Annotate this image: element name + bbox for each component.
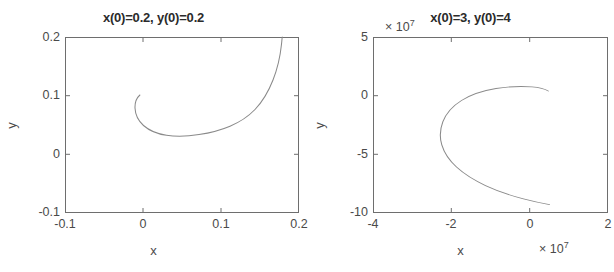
yaxis-label-right: y: [312, 106, 327, 146]
xtick-label-right-1: -2: [426, 217, 476, 231]
figure-container: x(0)=0.2, y(0)=0.2 0.2 0.1 0 -0.1 -0.1: [0, 0, 614, 272]
ytick-label-left-2: 0: [12, 147, 60, 161]
ytick-label-right-1: 0: [320, 88, 368, 102]
xtick-label-right-2: 0: [505, 217, 555, 231]
plot-panel-right: x(0)=3, y(0)=4 × 107 × 107: [307, 0, 614, 272]
plot-title-right: x(0)=3, y(0)=4: [327, 10, 614, 25]
xtick-label-right-3: 2: [583, 217, 614, 231]
axis-ticks-left: [65, 37, 299, 213]
yaxis-label-left: y: [4, 106, 19, 146]
ytick-label-left-1: 0.1: [12, 88, 60, 102]
xtick-label-left-2: 0.1: [196, 217, 246, 231]
xtick-label-left-0: -0.1: [40, 217, 90, 231]
xaxis-label-right: x: [307, 243, 614, 258]
xtick-label-left-1: 0: [118, 217, 168, 231]
xaxis-label-left: x: [0, 243, 307, 258]
plot-panel-left: x(0)=0.2, y(0)=0.2 0.2 0.1 0 -0.1 -0.1: [0, 0, 307, 272]
axis-ticks-right: [373, 37, 608, 213]
ytick-label-left-0: 0.2: [12, 30, 60, 44]
ytick-label-right-2: -5: [320, 147, 368, 161]
ytick-label-right-0: 5: [320, 30, 368, 44]
yaxis-exponent-prefix: × 10: [385, 20, 410, 34]
xtick-label-right-0: -4: [348, 217, 398, 231]
plot-title-left: x(0)=0.2, y(0)=0.2: [0, 10, 307, 25]
yaxis-exponent-right: × 107: [385, 18, 415, 34]
yaxis-exponent-power: 7: [410, 18, 415, 28]
